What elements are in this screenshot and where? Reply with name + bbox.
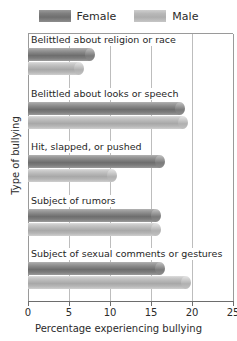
x-tick <box>192 301 193 306</box>
bar-female <box>28 262 165 275</box>
x-tick-label: 25 <box>227 307 237 319</box>
y-axis-label: Type of bullying <box>10 86 21 226</box>
bar-body <box>28 116 183 129</box>
bar-female <box>28 48 95 61</box>
bar-body <box>28 262 160 275</box>
bar-end-cap <box>178 116 188 129</box>
bar-group: Subject of sexual comments or gestures <box>28 248 233 302</box>
bar-male <box>28 116 188 129</box>
bar-body <box>28 209 156 222</box>
bar-body <box>28 223 156 236</box>
bar-male <box>28 62 84 75</box>
bar-body <box>28 48 90 61</box>
category-label: Hit, slapped, or pushed <box>30 141 144 153</box>
x-tick-label: 10 <box>104 307 117 319</box>
legend-entry-female: Female <box>39 10 117 22</box>
category-label: Belittled about religion or race <box>30 34 178 46</box>
bar-body <box>28 169 112 182</box>
x-tick <box>233 301 234 306</box>
legend-label-female: Female <box>77 11 117 22</box>
bar-female <box>28 155 165 168</box>
bar-end-cap <box>107 169 117 182</box>
gridline <box>233 34 234 301</box>
bar-body <box>28 102 180 115</box>
x-tick <box>151 301 152 306</box>
x-tick-label: 20 <box>186 307 199 319</box>
legend-entry-male: Male <box>134 10 198 22</box>
bar-end-cap <box>85 48 95 61</box>
category-label: Belittled about looks or speech <box>30 88 180 100</box>
category-label: Subject of rumors <box>30 195 118 207</box>
category-label: Subject of sexual comments or gestures <box>30 248 224 260</box>
x-tick <box>28 301 29 306</box>
bar-end-cap <box>151 209 161 222</box>
x-tick <box>110 301 111 306</box>
x-axis-tick-labels: 0510152025 <box>0 307 237 321</box>
x-axis-label: Percentage experiencing bullying <box>0 323 237 334</box>
bar-end-cap <box>155 155 165 168</box>
bar-group: Belittled about religion or race <box>28 34 233 88</box>
bar-body <box>28 62 79 75</box>
bar-end-cap <box>175 102 185 115</box>
bar-groups: Belittled about religion or raceBelittle… <box>28 34 233 301</box>
bar-group: Hit, slapped, or pushed <box>28 141 233 195</box>
bar-group: Belittled about looks or speech <box>28 88 233 142</box>
male-swatch-icon <box>134 10 166 22</box>
bar-male <box>28 169 117 182</box>
female-swatch-icon <box>39 10 71 22</box>
bar-male <box>28 276 191 289</box>
x-tick-label: 5 <box>66 307 72 319</box>
bar-end-cap <box>74 62 84 75</box>
bar-group: Subject of rumors <box>28 195 233 249</box>
bar-end-cap <box>151 223 161 236</box>
plot-area: Belittled about religion or raceBelittle… <box>28 33 233 301</box>
bar-body <box>28 155 160 168</box>
bar-chart: Female Male Belittled about religion or … <box>0 0 237 341</box>
x-tick-label: 15 <box>145 307 158 319</box>
bar-end-cap <box>155 262 165 275</box>
bar-female <box>28 209 161 222</box>
bar-female <box>28 102 185 115</box>
x-tick-label: 0 <box>25 307 31 319</box>
chart-legend: Female Male <box>0 6 237 26</box>
bar-male <box>28 223 161 236</box>
legend-label-male: Male <box>172 11 198 22</box>
bar-end-cap <box>181 276 191 289</box>
bar-body <box>28 276 186 289</box>
x-tick <box>69 301 70 306</box>
